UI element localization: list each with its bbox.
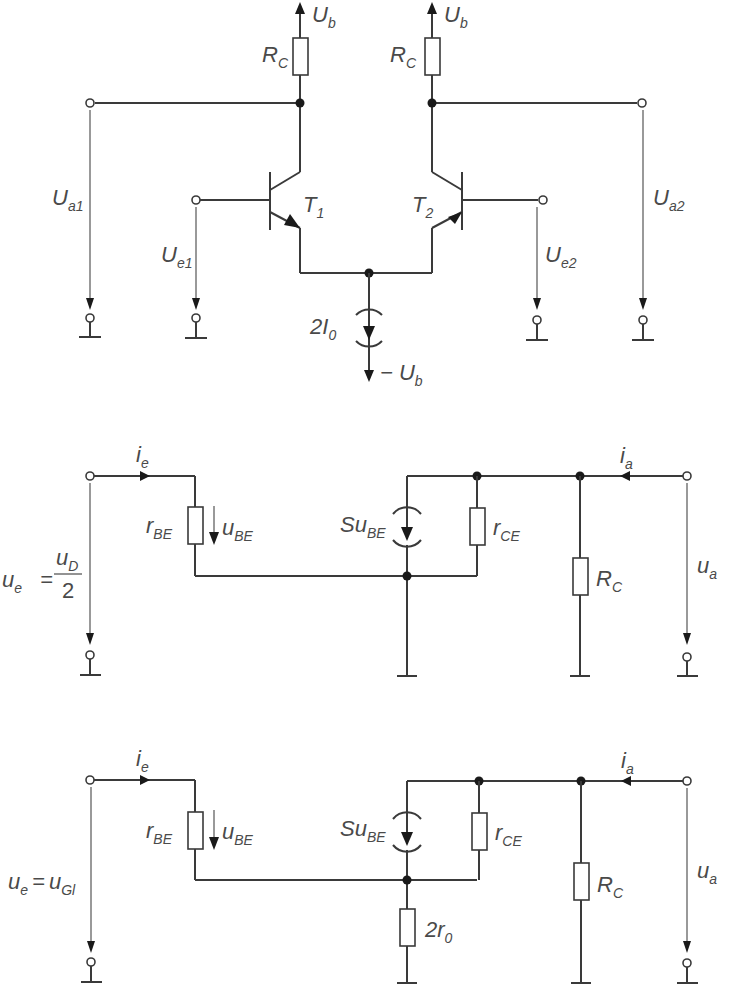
label-ube: uBE <box>222 515 254 544</box>
terminal-ua1 <box>86 99 94 107</box>
label-2i0: 2I0 <box>309 314 336 343</box>
resistor-2r0 <box>400 909 415 946</box>
label-su-be: SuBE <box>340 816 386 845</box>
junction-dot <box>403 876 412 885</box>
label-rce: rCE <box>495 820 522 849</box>
current-source-su-be <box>389 812 425 851</box>
svg-text:=: = <box>40 567 53 592</box>
circuit-small-signal-differential: ie rBE uBE SuBE rCE RC ia <box>2 442 717 676</box>
label-ua1: Ua1 <box>52 185 83 214</box>
current-source-su-be <box>389 507 425 546</box>
transistor-t1 <box>200 172 300 273</box>
resistor-rc-right <box>425 38 440 75</box>
current-arrow-icon <box>620 471 630 481</box>
label-rc-left: RC <box>262 42 289 71</box>
terminal-output <box>683 777 691 785</box>
label-t1: T1 <box>303 192 324 221</box>
label-ue2: Ue2 <box>545 242 577 271</box>
label-t2: T2 <box>412 192 433 221</box>
label-rc-right: RC <box>390 42 417 71</box>
resistor-rc-left <box>293 38 308 75</box>
voltage-arrow-ua2 <box>632 110 654 340</box>
resistor-rce <box>470 508 485 545</box>
transistor-t2 <box>432 172 538 273</box>
emitter-arrow-icon <box>284 214 300 228</box>
junction-dot <box>296 99 305 108</box>
arrow-down-icon <box>364 370 374 382</box>
label-rbe: rBE <box>146 513 173 542</box>
junction-dot <box>403 572 412 581</box>
voltage-arrow-ua <box>677 483 698 676</box>
terminal-output <box>683 472 691 480</box>
supply-arrow-left <box>295 2 305 38</box>
label-2r0: 2r0 <box>424 917 453 946</box>
svg-text:2: 2 <box>62 578 74 603</box>
current-arrow-icon <box>140 471 150 481</box>
arrow-up-icon <box>427 2 437 14</box>
label-ue-eq-ugl: ue=uGl <box>8 869 76 898</box>
supply-arrow-right <box>427 2 437 38</box>
label-ie: ie <box>136 442 149 471</box>
voltage-arrow-ua <box>677 788 698 983</box>
arrow-down-icon <box>363 326 375 340</box>
resistor-rce <box>472 813 487 850</box>
resistor-rbe <box>188 507 203 544</box>
voltage-arrow-ue1 <box>185 207 207 338</box>
voltage-arrow-icon <box>209 837 219 850</box>
label-ub-right: Ub <box>444 2 468 31</box>
resistor-rbe <box>188 812 203 849</box>
terminal-ua2 <box>638 99 646 107</box>
voltage-arrow-ue <box>81 787 102 982</box>
schematic-canvas: Ub RC Ub RC T1 <box>0 0 730 1001</box>
label-rc: RC <box>596 566 623 595</box>
voltage-arrow-ue <box>80 483 101 675</box>
label-ub-left: Ub <box>312 2 336 31</box>
label-ia: ia <box>621 748 634 777</box>
label-ua: ua <box>697 858 717 887</box>
label-rbe: rBE <box>146 818 173 847</box>
label-ua: ua <box>697 553 717 582</box>
terminal-input <box>86 472 94 480</box>
label-ie: ie <box>136 746 149 775</box>
svg-text:uD: uD <box>56 545 78 574</box>
label-su-be: SuBE <box>340 512 386 541</box>
label-ue1: Ue1 <box>161 242 192 271</box>
label-ia: ia <box>620 443 633 472</box>
resistor-rc <box>573 558 588 595</box>
terminal-ue2 <box>539 196 547 204</box>
voltage-arrow-ue2 <box>526 207 548 340</box>
label-ue-fraction: ue = uD 2 <box>2 545 82 603</box>
label-neg-ub: − Ub <box>380 360 423 389</box>
label-ua2: Ua2 <box>653 185 685 214</box>
label-rc: RC <box>597 872 624 901</box>
label-rce: rCE <box>493 515 520 544</box>
current-arrow-icon <box>140 775 150 785</box>
terminal-ue1 <box>192 196 200 204</box>
resistor-rc <box>574 863 589 900</box>
label-ube: uBE <box>222 819 254 848</box>
voltage-arrow-ua1 <box>79 110 101 337</box>
junction-dot <box>428 99 437 108</box>
svg-text:ue: ue <box>2 567 22 596</box>
arrow-up-icon <box>295 2 305 14</box>
emitter-arrow-icon <box>448 212 462 224</box>
terminal-input <box>86 776 94 784</box>
voltage-arrow-icon <box>209 532 219 545</box>
circuit-differential-amplifier: Ub RC Ub RC T1 <box>52 2 685 389</box>
current-arrow-icon <box>621 776 631 786</box>
circuit-small-signal-common-mode: ie rBE uBE SuBE rCE 2r0 RC <box>8 746 717 983</box>
